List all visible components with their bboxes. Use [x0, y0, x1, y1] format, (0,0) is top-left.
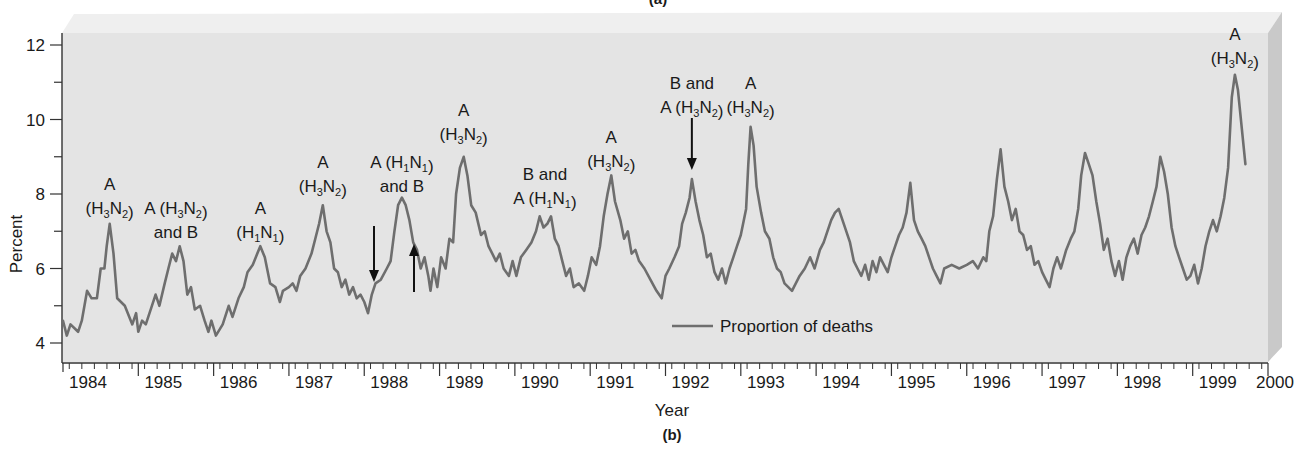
plot-side-face [1268, 12, 1282, 362]
y-tick-label: 4 [36, 334, 45, 353]
annotation-line: A [317, 153, 329, 172]
annotation-line: B and [523, 165, 567, 184]
legend-label: Proportion of deaths [720, 317, 873, 336]
x-tick-label: 1990 [521, 373, 559, 392]
y-tick-label: 6 [36, 260, 45, 279]
y-axis: 4681012 [26, 33, 62, 363]
x-tick-label: 1987 [295, 373, 333, 392]
x-tick-label: 1988 [370, 373, 408, 392]
panel-label: (b) [662, 426, 681, 443]
plot-front-face [62, 33, 1268, 362]
y-tick-label: 12 [26, 36, 45, 55]
x-tick-label: 1999 [1199, 373, 1237, 392]
x-tick-label: 1997 [1048, 373, 1086, 392]
y-axis-title: Percent [7, 214, 26, 273]
plot-box [62, 12, 1282, 362]
y-tick-label: 8 [36, 185, 45, 204]
annotation-line: A [606, 128, 618, 147]
x-tick-label: 1984 [69, 373, 107, 392]
plot-top-face [62, 12, 1282, 33]
x-axis: 1984198519861987198819891990199119921993… [62, 363, 1294, 392]
x-tick-label: 1985 [144, 373, 182, 392]
top-panel-label: (a) [649, 0, 667, 7]
annotation-line: and B [380, 177, 424, 196]
y-tick-label: 10 [26, 111, 45, 130]
x-axis-title: Year [655, 401, 690, 420]
x-tick-label: 1991 [596, 373, 634, 392]
x-tick-label: 1993 [747, 373, 785, 392]
influence-deaths-chart: (a) 4681012 1984198519861987198819891990… [0, 0, 1312, 468]
x-tick-label: 1994 [822, 373, 860, 392]
x-tick-label: 2000 [1256, 373, 1294, 392]
annotation-line: A [104, 175, 116, 194]
annotation-line: A [255, 199, 267, 218]
x-tick-label: 1989 [446, 373, 484, 392]
x-tick-label: 1995 [898, 373, 936, 392]
annotation-line: B and [670, 74, 714, 93]
annotation-line: A [745, 74, 757, 93]
annotation-line: and B [154, 223, 198, 242]
x-tick-label: 1996 [973, 373, 1011, 392]
x-tick-label: 1986 [220, 373, 258, 392]
x-tick-label: 1992 [672, 373, 710, 392]
x-tick-label: 1998 [1123, 373, 1161, 392]
annotation-line: A [458, 101, 470, 120]
annotation-line: A [1229, 25, 1241, 44]
